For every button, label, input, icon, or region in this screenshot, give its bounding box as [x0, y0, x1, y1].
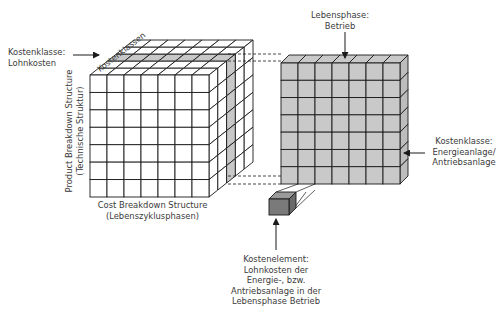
front-cell	[141, 92, 158, 109]
front-cell	[349, 80, 366, 97]
front-cell	[107, 92, 124, 109]
front-cell	[90, 162, 107, 179]
front-cell	[383, 98, 400, 115]
front-cell	[192, 145, 209, 162]
front-cell	[90, 127, 107, 144]
front-cell	[281, 115, 298, 132]
axis-label-product-breakdown: Product Breakdown Structure (Technische …	[64, 66, 85, 196]
front-cell	[141, 180, 158, 197]
front-cell	[366, 80, 383, 97]
front-cell	[192, 75, 209, 92]
front-cell	[366, 132, 383, 149]
front-cell	[124, 110, 141, 127]
front-cell	[141, 110, 158, 127]
front-cell	[383, 132, 400, 149]
front-cell	[90, 110, 107, 127]
projection-line	[296, 184, 315, 192]
front-cell	[175, 110, 192, 127]
label-line: Kostenklasse:	[426, 136, 502, 147]
label-line: Antriebsanlage in der	[226, 286, 326, 297]
front-cell	[124, 162, 141, 179]
front-cell	[107, 145, 124, 162]
front-cell	[158, 145, 175, 162]
front-cell	[332, 115, 349, 132]
front-cell	[315, 63, 332, 80]
front-cell	[298, 63, 315, 80]
front-cell	[192, 127, 209, 144]
label-line: Lohnkosten	[8, 58, 65, 69]
front-cell	[315, 149, 332, 166]
front-cell	[349, 149, 366, 166]
front-cell	[141, 145, 158, 162]
front-cell	[366, 98, 383, 115]
label-line: Energie-, bzw.	[226, 275, 326, 286]
front-cell	[315, 98, 332, 115]
front-cell	[107, 110, 124, 127]
front-cell	[158, 92, 175, 109]
front-cell	[298, 98, 315, 115]
front-cell	[175, 145, 192, 162]
front-cell	[315, 115, 332, 132]
front-cell	[175, 180, 192, 197]
front-cell	[298, 115, 315, 132]
front-cell	[366, 149, 383, 166]
front-cell	[332, 80, 349, 97]
front-cell	[124, 145, 141, 162]
kostenelement-label: Kostenelement: Lohnkosten der Energie-, …	[226, 254, 326, 307]
front-cell	[141, 162, 158, 179]
front-cell	[175, 162, 192, 179]
front-cell	[349, 132, 366, 149]
front-cell	[107, 75, 124, 92]
front-cell	[366, 115, 383, 132]
cost-cube-diagram: Kostenklasse: Lohnkosten Kostenklassen P…	[0, 0, 503, 313]
label-line: Lohnkosten der	[226, 265, 326, 276]
front-cell	[158, 110, 175, 127]
label-line: (Technische Struktur)	[75, 66, 86, 196]
front-cell	[298, 167, 315, 184]
front-cell	[281, 63, 298, 80]
front-cell	[281, 149, 298, 166]
front-cell	[124, 75, 141, 92]
front-cell	[298, 149, 315, 166]
front-cell	[315, 132, 332, 149]
front-cell	[158, 180, 175, 197]
label-line: Cost Breakdown Structure	[90, 200, 215, 211]
front-cell	[90, 92, 107, 109]
label-line: Lebensphase Betrieb	[226, 296, 326, 307]
label-line: Lebensphase:	[305, 10, 375, 21]
front-cell	[175, 127, 192, 144]
front-cell	[175, 75, 192, 92]
label-line: Product Breakdown Structure	[64, 66, 75, 196]
front-cell	[124, 180, 141, 197]
front-cell	[107, 127, 124, 144]
front-cell	[124, 127, 141, 144]
front-cell	[349, 98, 366, 115]
front-cell	[298, 132, 315, 149]
front-cell	[192, 92, 209, 109]
front-cell	[281, 80, 298, 97]
front-cell	[349, 115, 366, 132]
front-cell	[175, 92, 192, 109]
front-cell	[281, 167, 298, 184]
front-cell	[332, 132, 349, 149]
front-cell	[90, 75, 107, 92]
front-cell	[332, 63, 349, 80]
front-cell	[90, 180, 107, 197]
front-cell	[192, 162, 209, 179]
front-cell	[192, 110, 209, 127]
cost-element-cube	[269, 184, 315, 215]
front-cell	[298, 80, 315, 97]
label-line: Antriebsanlage	[426, 157, 502, 168]
front-cell	[383, 149, 400, 166]
right-slice-cube	[281, 55, 408, 184]
label-line: (Lebenszyklusphasen)	[90, 211, 215, 222]
front-cell	[315, 80, 332, 97]
front-cell	[349, 63, 366, 80]
front-cell	[141, 75, 158, 92]
front-cell	[281, 132, 298, 149]
kostenklasse-lohnkosten-label: Kostenklasse: Lohnkosten	[8, 47, 65, 68]
label-line: Betrieb	[305, 21, 375, 32]
front-cell	[332, 167, 349, 184]
front-cell	[158, 127, 175, 144]
label-line: Kostenelement:	[226, 254, 326, 265]
